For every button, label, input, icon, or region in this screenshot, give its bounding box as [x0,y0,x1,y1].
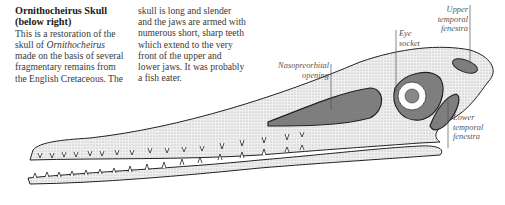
lower-temporal-fenestra-label: Lower temporal fenestra [453,113,483,142]
label-line: Nasopreorbital [262,61,329,71]
label-line: fenestra [453,132,483,142]
label-line: Eye [399,29,420,39]
eye-socket-label: Eye socket [399,29,420,48]
label-line: fenestra [428,24,468,34]
label-line: Upper [428,5,468,15]
nasopreorbital-label: Nasopreorbital opening [262,61,329,80]
label-line: temporal [428,15,468,25]
label-line: opening [262,71,329,81]
upper-temporal-fenestra-label: Upper temporal fenestra [428,5,468,34]
label-line: Lower [453,113,483,123]
label-line: socket [399,39,420,49]
label-line: temporal [453,123,483,133]
